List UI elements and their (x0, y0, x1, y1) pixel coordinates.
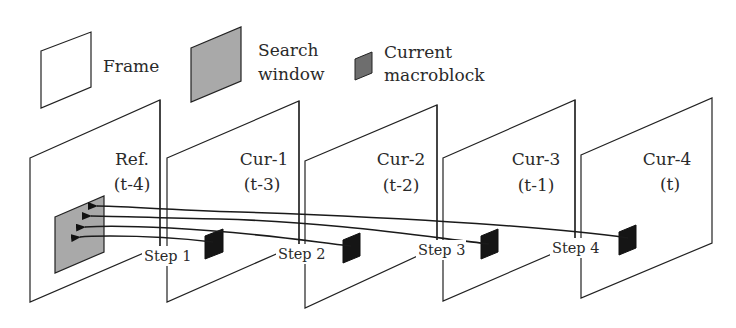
frame-cur-4-name: Cur-4 (643, 149, 692, 169)
legend-macroblock-label-1: Current (384, 42, 452, 62)
frame-ref-name: Ref. (115, 149, 149, 169)
motion-estimation-diagram: Frame Search window Current macroblock C… (0, 0, 736, 328)
frame-cur-3-name: Cur-3 (512, 149, 561, 169)
frame-cur-4-time: (t) (660, 174, 680, 194)
legend-macroblock-icon (355, 52, 372, 80)
frame-cur-1: Cur-1 (t-3) (167, 101, 299, 302)
legend-macroblock-label-2: macroblock (384, 65, 485, 85)
frame-cur-3-time: (t-1) (518, 175, 555, 195)
legend-search-window-label-1: Search (258, 40, 318, 60)
legend-frame-icon (41, 32, 91, 108)
legend-frame-label: Frame (103, 56, 159, 76)
legend: Frame Search window Current macroblock (41, 27, 485, 108)
frame-cur-4: Cur-4 (t) (581, 98, 712, 298)
step-3-label: Step 3 (418, 242, 465, 258)
frame-cur-2-time: (t-2) (383, 175, 420, 195)
step-1-label: Step 1 (144, 248, 191, 264)
frame-cur-1-name: Cur-1 (240, 149, 289, 169)
step-4-label: Step 4 (552, 240, 599, 256)
legend-search-window-label-2: window (258, 64, 325, 84)
frame-cur-1-time: (t-3) (244, 174, 281, 194)
frame-cur-3: Cur-3 (t-1) (443, 100, 575, 301)
frame-cur-2-name: Cur-2 (377, 149, 426, 169)
frame-ref-time: (t-4) (114, 174, 151, 194)
step-2-label: Step 2 (278, 246, 325, 262)
frame-cur-2: Cur-2 (t-2) (305, 105, 437, 308)
frame-ref: Ref. (t-4) (30, 100, 160, 302)
legend-search-window-icon (191, 27, 241, 102)
